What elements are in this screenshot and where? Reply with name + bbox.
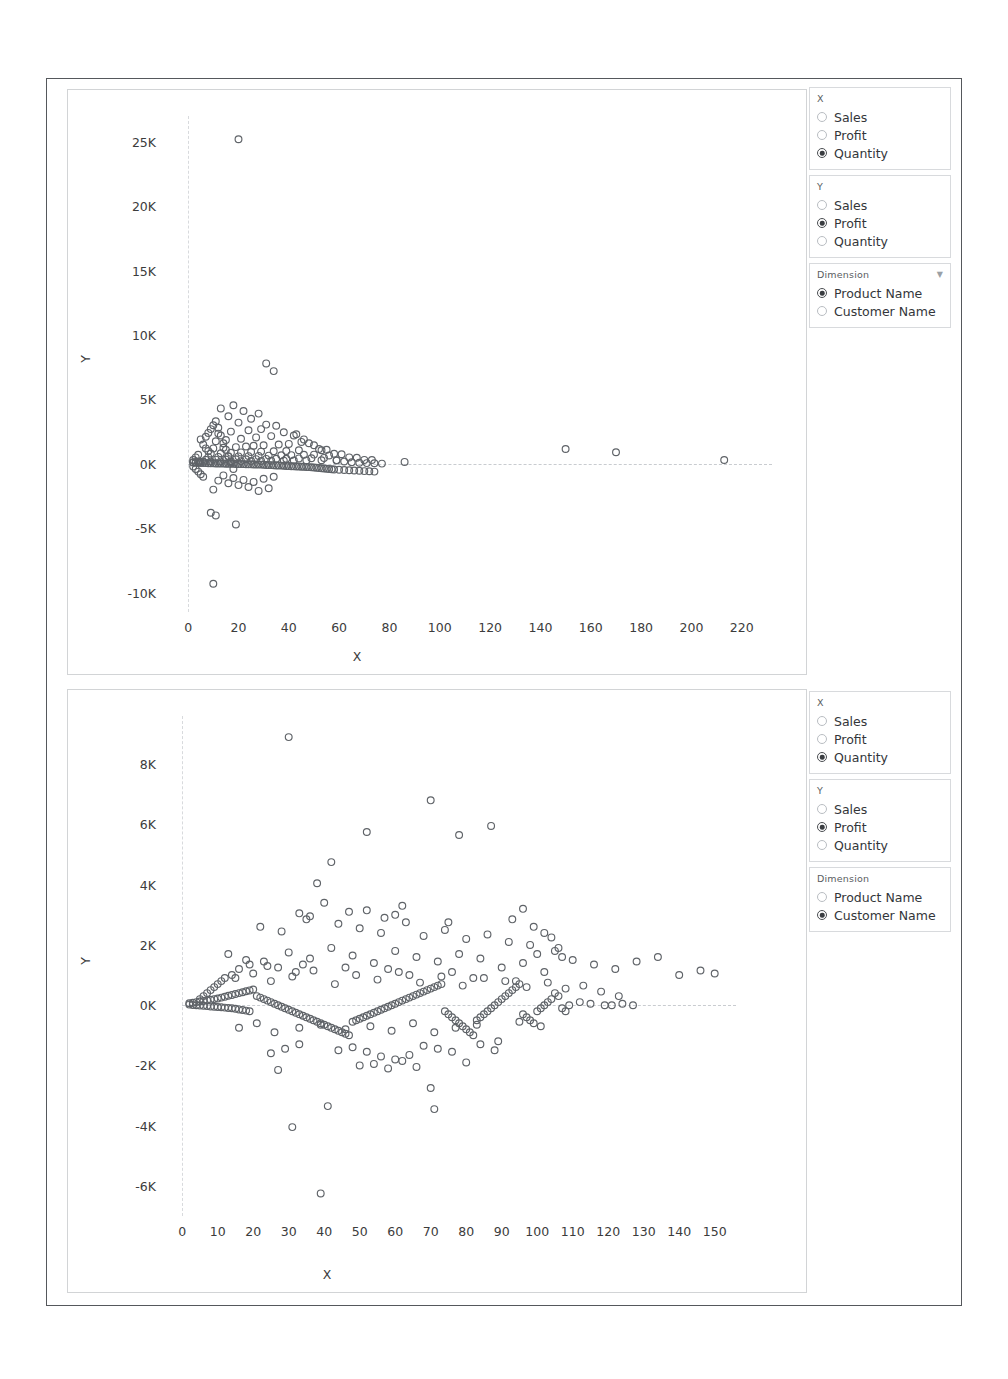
scatter-point (711, 970, 718, 977)
scatter-chart-top[interactable]: 25K20K15K10K5K0K-5K-10K 0204060801001201… (68, 90, 806, 674)
radio-unselected-icon[interactable] (817, 200, 827, 210)
radio-selected-icon[interactable] (817, 752, 827, 762)
y-tick-label: 4K (140, 877, 156, 892)
scatter-plot-card-bottom[interactable]: 8K6K4K2K0K-2K-4K-6K 01020304050607080901… (67, 689, 807, 1293)
scatter-chart-bottom[interactable]: 8K6K4K2K0K-2K-4K-6K 01020304050607080901… (68, 690, 806, 1292)
scatter-point (342, 964, 349, 971)
radio-selected-icon[interactable] (817, 148, 827, 158)
scatter-point (371, 960, 378, 967)
radio-unselected-icon[interactable] (817, 236, 827, 246)
control-box-y[interactable]: YSalesProfitQuantity (809, 779, 951, 862)
scatter-point (356, 925, 363, 932)
scatter-point (282, 1045, 289, 1052)
x-tick-label: 120 (478, 620, 502, 635)
scatter-point (356, 1062, 363, 1069)
radio-option-sales[interactable]: Sales (817, 712, 943, 730)
control-box-x[interactable]: XSalesProfitQuantity (809, 87, 951, 170)
radio-selected-icon[interactable] (817, 910, 827, 920)
radio-option-profit[interactable]: Profit (817, 730, 943, 748)
scatter-point (541, 930, 548, 937)
x-tick-label: 110 (561, 1224, 585, 1239)
radio-unselected-icon[interactable] (817, 734, 827, 744)
radio-option-profit[interactable]: Profit (817, 214, 943, 232)
radio-selected-icon[interactable] (817, 822, 827, 832)
scatter-point (410, 1020, 417, 1027)
scatter-point (230, 402, 237, 409)
scatter-point (257, 923, 264, 930)
scatter-point (268, 978, 275, 985)
y-tick-label: 5K (140, 392, 156, 407)
scatter-point (275, 441, 282, 448)
radio-option-product-name[interactable]: Product Name (817, 888, 943, 906)
scatter-point (314, 880, 321, 887)
radio-unselected-icon[interactable] (817, 306, 827, 316)
scatter-plot-card-top[interactable]: 25K20K15K10K5K0K-5K-10K 0204060801001201… (67, 89, 807, 675)
y-tick-label: -6K (135, 1178, 156, 1193)
radio-option-profit[interactable]: Profit (817, 126, 943, 144)
y-tick-label: -10K (127, 585, 156, 600)
radio-unselected-icon[interactable] (817, 840, 827, 850)
scatter-point (292, 969, 299, 976)
radio-option-customer-name[interactable]: Customer Name (817, 302, 943, 320)
radio-option-label: Profit (834, 216, 867, 231)
scatter-point (388, 1027, 395, 1034)
scatter-point (612, 966, 619, 973)
radio-option-quantity[interactable]: Quantity (817, 836, 943, 854)
radio-option-label: Quantity (834, 146, 888, 161)
scatter-point (434, 958, 441, 965)
radio-option-label: Product Name (834, 890, 922, 905)
chevron-down-icon[interactable]: ▼ (937, 271, 943, 279)
radio-option-quantity[interactable]: Quantity (817, 232, 943, 250)
scatter-point (399, 1058, 406, 1065)
scatter-point (523, 984, 530, 991)
x-tick-label: 20 (245, 1224, 261, 1239)
control-box-dimension[interactable]: Dimension▼Product NameCustomer Name (809, 263, 951, 328)
radio-unselected-icon[interactable] (817, 130, 827, 140)
scatter-point (324, 1103, 331, 1110)
radio-unselected-icon[interactable] (817, 892, 827, 902)
scatter-point (253, 1020, 260, 1027)
x-tick-label: 90 (494, 1224, 510, 1239)
controls-bottom[interactable]: XSalesProfitQuantityYSalesProfitQuantity… (809, 691, 951, 937)
scatter-point (442, 927, 449, 934)
radio-unselected-icon[interactable] (817, 112, 827, 122)
control-box-x[interactable]: XSalesProfitQuantity (809, 691, 951, 774)
radio-selected-icon[interactable] (817, 218, 827, 228)
radio-option-sales[interactable]: Sales (817, 800, 943, 818)
radio-option-quantity[interactable]: Quantity (817, 144, 943, 162)
scatter-point (381, 914, 388, 921)
radio-option-label: Sales (834, 198, 867, 213)
controls-top[interactable]: XSalesProfitQuantityYSalesProfitQuantity… (809, 87, 951, 333)
x-tick-label: 200 (680, 620, 704, 635)
y-tick-label: 15K (132, 263, 156, 278)
radio-option-customer-name[interactable]: Customer Name (817, 906, 943, 924)
x-tick-label: 60 (387, 1224, 403, 1239)
scatter-point (261, 958, 268, 965)
scatter-point (491, 1047, 498, 1054)
radio-option-sales[interactable]: Sales (817, 196, 943, 214)
control-box-title: Y (817, 785, 943, 796)
scatter-point (240, 408, 247, 415)
radio-unselected-icon[interactable] (817, 716, 827, 726)
radio-unselected-icon[interactable] (817, 804, 827, 814)
y-axis-title-bottom: Y (78, 957, 93, 965)
radio-selected-icon[interactable] (817, 288, 827, 298)
scatter-point (374, 976, 381, 983)
control-box-dimension[interactable]: DimensionProduct NameCustomer Name (809, 867, 951, 932)
panel-top: 25K20K15K10K5K0K-5K-10K 0204060801001201… (47, 79, 961, 683)
scatter-point (300, 961, 307, 968)
scatter-point (427, 797, 434, 804)
radio-option-sales[interactable]: Sales (817, 108, 943, 126)
x-tick-label: 100 (525, 1224, 549, 1239)
scatter-point (367, 1023, 374, 1030)
scatter-points-bottom (68, 690, 368, 840)
x-tick-label: 60 (331, 620, 347, 635)
control-box-y[interactable]: YSalesProfitQuantity (809, 175, 951, 258)
scatter-point (246, 961, 253, 968)
radio-option-profit[interactable]: Profit (817, 818, 943, 836)
scatter-point (233, 444, 240, 451)
scatter-point (520, 960, 527, 967)
radio-option-quantity[interactable]: Quantity (817, 748, 943, 766)
scatter-point (258, 426, 265, 433)
radio-option-product-name[interactable]: Product Name (817, 284, 943, 302)
